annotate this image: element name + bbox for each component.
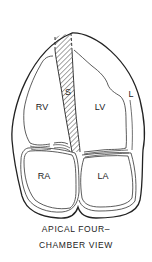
left-atrium-outline <box>81 156 133 207</box>
label-right-ventricle: RV <box>36 102 48 112</box>
left-ventricle-outline <box>74 50 126 152</box>
label-left-atrium: LA <box>97 171 108 181</box>
lateral-wall-contour <box>130 100 132 150</box>
caption-line-2: CHAMBER VIEW <box>0 238 152 253</box>
label-left-ventricle: LV <box>95 102 105 112</box>
heart-outer-outline <box>12 33 145 218</box>
label-lateral-wall: L <box>128 89 133 99</box>
caption-line-1: APICAL FOUR– <box>0 222 152 237</box>
label-septum: S <box>65 87 71 97</box>
label-right-atrium: RA <box>38 171 51 181</box>
